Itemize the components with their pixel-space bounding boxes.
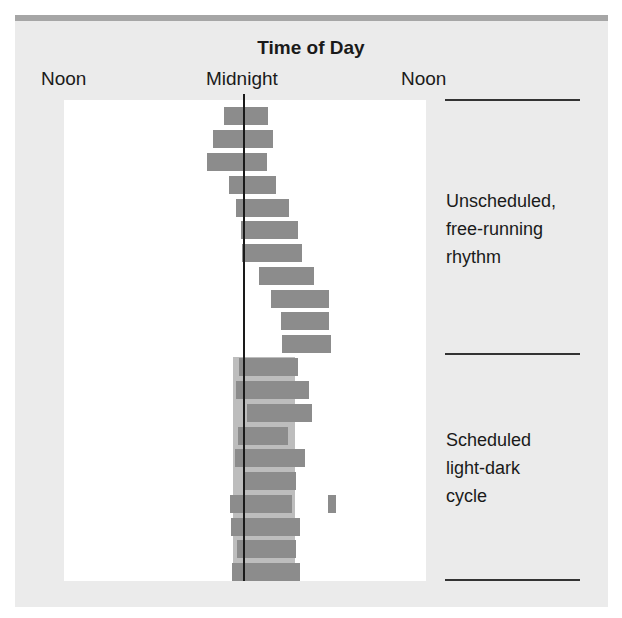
sleep-bar-row-17: [244, 472, 295, 490]
sleep-bar-row-14: [247, 404, 312, 422]
section-label-unscheduled: Unscheduled, free-running rhythm: [446, 187, 556, 271]
section-divider-bottom: [445, 579, 580, 581]
section-divider-top: [445, 99, 580, 101]
sleep-bar-row-18: [328, 495, 336, 513]
x-tick-noon-right: Noon: [401, 68, 446, 90]
sleep-bar-row-9: [271, 290, 329, 308]
section-divider-middle: [445, 353, 580, 355]
sleep-bar-row-16: [235, 449, 305, 467]
chart-title: Time of Day: [0, 37, 622, 59]
sleep-bar-row-15: [238, 427, 289, 445]
sleep-bar-row-13: [236, 381, 309, 399]
sleep-bar-row-7: [242, 244, 303, 262]
sleep-bar-row-19: [231, 518, 299, 536]
sleep-bar-row-12: [239, 358, 298, 376]
midnight-reference-line: [243, 94, 245, 581]
section-label-scheduled: Scheduled light-dark cycle: [446, 426, 531, 510]
sleep-bar-row-8: [259, 267, 313, 285]
sleep-bar-row-6: [241, 221, 298, 239]
sleep-bar-row-4: [229, 176, 277, 194]
sleep-bar-row-11: [282, 335, 331, 353]
panel-top-rule: [15, 15, 608, 21]
x-tick-noon-left: Noon: [41, 68, 86, 90]
sleep-bar-row-20: [237, 540, 296, 558]
sleep-bar-row-18: [230, 495, 292, 513]
sleep-bar-row-10: [281, 312, 329, 330]
x-tick-midnight: Midnight: [206, 68, 278, 90]
sleep-bar-row-1: [224, 107, 268, 125]
sleep-bar-row-3: [207, 153, 267, 171]
